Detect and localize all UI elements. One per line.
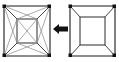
- right-mesh-vertex-tr: [113, 5, 117, 9]
- diagram-svg: [0, 0, 119, 62]
- left-mesh-group: [3, 5, 52, 58]
- left-mesh-vertex-br: [48, 54, 52, 58]
- right-mesh-group: [69, 5, 117, 58]
- leftward-transform-arrow: [53, 24, 68, 34]
- left-mesh-vertex-tr: [48, 5, 52, 9]
- left-mesh-vertex-tl: [3, 5, 7, 9]
- figure-canvas: [0, 0, 119, 62]
- transform-arrow-group: [53, 24, 68, 34]
- right-mesh-vertex-bl: [69, 54, 73, 58]
- right-mesh-vertex-br: [113, 54, 117, 58]
- right-mesh-vertex-tl: [69, 5, 73, 9]
- left-mesh-vertex-bl: [3, 54, 7, 58]
